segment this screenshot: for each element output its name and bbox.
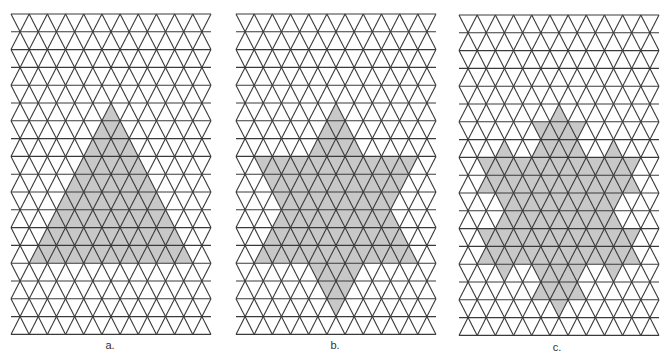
panel-label-a: a. (105, 339, 114, 351)
panel-label-c: c. (553, 341, 562, 353)
triangular-grid (11, 14, 211, 334)
panel-b: b. (236, 14, 436, 351)
koch-snowflake-figure: a. b. c. (0, 0, 670, 363)
panel-label-b: b. (330, 339, 339, 351)
panel-c: c. (459, 15, 659, 353)
panel-a: a. (11, 14, 211, 351)
